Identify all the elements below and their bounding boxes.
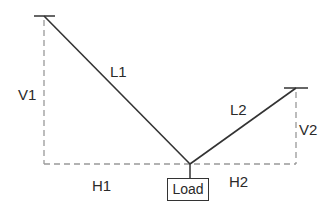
label-h1: H1 xyxy=(92,178,111,193)
label-l1: L1 xyxy=(110,64,127,79)
load-box: Load xyxy=(167,178,209,201)
label-l2: L2 xyxy=(230,102,247,117)
label-v2: V2 xyxy=(299,122,317,137)
cable-l2 xyxy=(190,88,296,164)
label-h2: H2 xyxy=(229,174,248,189)
label-v1: V1 xyxy=(18,87,36,102)
cable-diagram: L1 L2 V1 V2 H1 H2 Load xyxy=(0,0,336,221)
cable-l1 xyxy=(44,16,190,164)
